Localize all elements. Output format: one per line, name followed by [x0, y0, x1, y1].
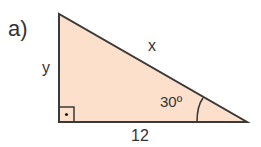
right-triangle [59, 14, 247, 122]
angle-label: 30º [160, 94, 182, 109]
part-label: a) [8, 18, 28, 40]
right-angle-dot [65, 113, 68, 116]
hypotenuse-label: x [148, 38, 156, 54]
base-label: 12 [131, 128, 149, 144]
triangle-figure [0, 0, 261, 147]
triangle-diagram: a) x y 12 30º [0, 0, 261, 147]
vertical-side-label: y [42, 60, 50, 76]
